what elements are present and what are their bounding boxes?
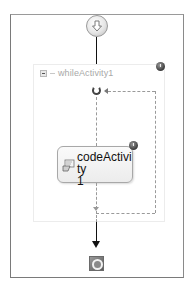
connector-start-to-while [96, 37, 97, 64]
code-activity-label: codeActivity 1 [77, 151, 133, 187]
connector-code-to-exit [96, 183, 97, 209]
code-activity-label-line1: codeActivity [77, 150, 132, 176]
loop-connector-top [108, 91, 155, 92]
code-activity-node[interactable]: codeActivity 1 [57, 146, 133, 183]
loop-connector-right [155, 91, 156, 213]
end-stop-icon[interactable] [89, 256, 104, 271]
warning-icon[interactable] [129, 141, 138, 150]
code-activity-icon [62, 159, 75, 172]
connector-loop-to-code [96, 97, 97, 146]
while-activity-title: whileActivity1 [58, 68, 113, 78]
loop-connector-bottom [96, 213, 155, 214]
warning-icon[interactable] [156, 62, 165, 71]
end-arrowhead [92, 241, 100, 248]
connector-exit-dashed [96, 211, 97, 222]
header-dash [50, 73, 55, 74]
start-arrow-down-icon[interactable] [86, 15, 108, 37]
while-activity-header[interactable]: whileActivity1 [40, 68, 113, 78]
loop-icon [92, 86, 101, 95]
connector-while-to-end [96, 222, 97, 242]
code-activity-label-line2: 1 [77, 174, 84, 188]
collapse-minus-icon[interactable] [40, 70, 47, 77]
